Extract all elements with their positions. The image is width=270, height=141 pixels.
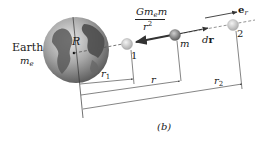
point-1-sphere [122, 39, 133, 50]
unit-vector-label: er [238, 5, 248, 17]
r2-label: r2 [214, 76, 223, 88]
unit-vector-er-arrow [205, 12, 237, 18]
earth-label: Earth [12, 42, 43, 53]
earth-radius-label: R [72, 36, 80, 47]
mass-m-label: m [180, 39, 189, 49]
point-1-label: 1 [131, 51, 137, 61]
r-label: r [151, 75, 156, 85]
mass-m-sphere [170, 30, 181, 41]
force-denominator: r2 [143, 21, 152, 32]
gravitational-work-diagram: Earth me R Gmem r2 1 m 2 dr er r1 r r2 (… [0, 0, 270, 141]
dimension-r [81, 81, 180, 95]
r1-label: r1 [101, 69, 110, 81]
gravity-force-arrow [136, 35, 172, 42]
extension-line-2 [236, 31, 242, 89]
point-2-label: 2 [237, 29, 243, 39]
earth-mass-label: me [20, 56, 34, 68]
displacement-label: dr [202, 35, 214, 45]
force-numerator: Gmem [136, 7, 167, 19]
figure-label: (b) [157, 122, 171, 132]
diagram-graphics [0, 0, 270, 141]
